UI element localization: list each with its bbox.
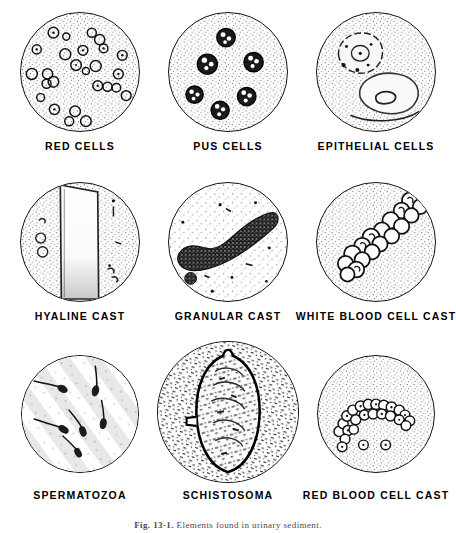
schistosoma-drawing (158, 342, 298, 482)
hyaline-cast-drawing (21, 183, 139, 301)
pus-cells-drawing (169, 13, 287, 131)
figure-plate: RED CELLS PUS CELLS (0, 0, 456, 533)
epithelial-cells-drawing (317, 13, 435, 131)
panel-label-epithelial-cells: EPITHELIAL CELLS (266, 140, 456, 152)
red-blood-cell-cast-drawing (318, 356, 434, 472)
micrograph-granular-cast (168, 182, 288, 302)
micrograph-hyaline-cast (20, 182, 140, 302)
micrograph-epithelial-cells (316, 12, 436, 132)
micrograph-white-blood-cell-cast (316, 182, 436, 302)
panel-label-white-blood-cell-cast: WHITE BLOOD CELL CAST (266, 310, 456, 322)
micrograph-red-blood-cell-cast (317, 355, 435, 473)
spermatozoa-drawing (22, 356, 138, 472)
figure-number: Fig. 13-1. (134, 520, 174, 530)
micrograph-schistosoma (157, 341, 299, 483)
white-blood-cell-cast-drawing (317, 183, 435, 301)
granular-cast-drawing (169, 183, 287, 301)
micrograph-pus-cells (168, 12, 288, 132)
micrograph-red-cells (20, 12, 140, 132)
figure-caption-text: Elements found in urinary sediment. (177, 520, 322, 530)
red-cells-drawing (21, 13, 139, 131)
figure-caption: Fig. 13-1. Elements found in urinary sed… (0, 520, 456, 530)
micrograph-spermatozoa (21, 355, 139, 473)
panel-label-red-blood-cell-cast: RED BLOOD CELL CAST (266, 489, 456, 501)
